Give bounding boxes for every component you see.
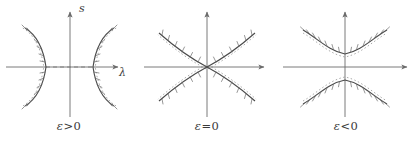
lower-left-hatching: [162, 72, 201, 104]
caption-value: 0: [211, 119, 219, 133]
bifurcation-figure: s λ ε>0: [0, 0, 415, 148]
caption-epsilon-zero: ε=0: [138, 119, 276, 133]
upper-right-hatching: [214, 30, 253, 62]
panel-epsilon-negative: ε<0: [277, 0, 415, 148]
caption-relation: >: [63, 119, 73, 133]
s-axis-label: s: [79, 2, 85, 15]
caption-epsilon-positive: ε>0: [0, 119, 138, 133]
caption-relation: =: [201, 119, 211, 133]
upper-left-branch: [158, 30, 207, 69]
caption-epsilon-negative: ε<0: [277, 119, 415, 133]
caption-value: 0: [350, 119, 358, 133]
lower-right-branch: [207, 65, 256, 104]
axes-group: [144, 12, 264, 117]
panel-epsilon-positive: s λ ε>0: [0, 0, 138, 148]
panel-epsilon-zero: ε=0: [138, 0, 276, 148]
axes-group: [6, 12, 118, 117]
lambda-axis-label: λ: [119, 66, 126, 79]
caption-relation: <: [340, 119, 350, 133]
lower-right-hatching: [214, 72, 253, 104]
upper-right-branch: [207, 30, 256, 69]
lower-left-branch: [158, 65, 207, 104]
upper-left-hatching: [162, 30, 201, 62]
caption-value: 0: [73, 119, 81, 133]
